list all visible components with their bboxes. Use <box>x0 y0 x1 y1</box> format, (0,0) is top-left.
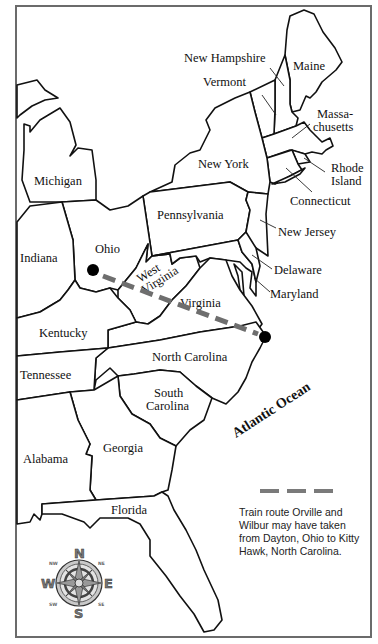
state-new-york <box>150 92 270 194</box>
label-massachusetts-2: chusetts <box>313 120 353 134</box>
label-delaware: Delaware <box>274 263 322 277</box>
compass-s: S <box>74 606 83 621</box>
compass-sw: SW <box>49 602 57 607</box>
label-tennessee: Tennessee <box>20 368 72 382</box>
compass-n: N <box>74 546 85 561</box>
label-florida: Florida <box>111 503 148 517</box>
compass-rose: N S E W NE NW SE SW <box>41 546 113 621</box>
label-north-carolina: North Carolina <box>152 350 228 364</box>
label-maryland: Maryland <box>270 287 319 301</box>
label-kentucky: Kentucky <box>39 326 88 340</box>
compass-se: SE <box>98 602 104 607</box>
label-indiana: Indiana <box>20 251 58 265</box>
legend-caption: Train route Orville and Wilbur may have … <box>239 506 369 558</box>
label-ohio: Ohio <box>95 242 120 256</box>
label-alabama: Alabama <box>23 452 69 466</box>
leader-rhode-island <box>304 158 325 172</box>
label-connecticut: Connecticut <box>290 194 351 208</box>
dayton-ohio-marker <box>87 264 99 276</box>
label-massachusetts-1: Massa- <box>317 107 353 121</box>
label-michigan: Michigan <box>34 174 83 188</box>
label-pennsylvania: Pennsylvania <box>157 208 224 222</box>
label-atlantic-ocean: Atlantic Ocean <box>229 379 313 441</box>
label-rhode-island-2: Island <box>331 174 362 188</box>
label-south-carolina-1: South <box>154 386 184 400</box>
label-new-york: New York <box>198 157 249 171</box>
label-rhode-island-1: Rhode <box>331 161 364 175</box>
compass-ne: NE <box>98 561 105 566</box>
label-georgia: Georgia <box>103 441 143 455</box>
label-vermont: Vermont <box>203 75 247 89</box>
label-new-jersey: New Jersey <box>278 225 337 239</box>
compass-w: W <box>41 576 55 591</box>
label-south-carolina-2: Carolina <box>146 399 189 413</box>
label-new-hampshire: New Hampshire <box>184 51 266 65</box>
compass-e: E <box>104 576 113 591</box>
kitty-hawk-marker <box>259 331 271 343</box>
label-maine: Maine <box>293 59 325 73</box>
compass-nw: NW <box>49 561 58 566</box>
